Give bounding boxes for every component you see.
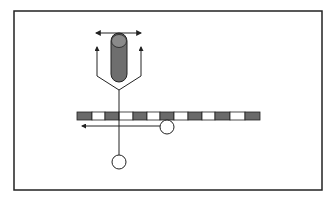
bar-segment-dark [188,112,202,120]
segmented-bar [77,112,260,120]
bar-segment-light [230,112,245,120]
bar-segment-dark [160,112,174,120]
bottom-circle [112,155,126,169]
bar-segment-light [202,112,215,120]
bar-segment-light [119,112,133,120]
bar-segment-dark [77,112,92,120]
bar-segment-dark [215,112,230,120]
bar-segment-light [147,112,160,120]
bar-segment-light [174,112,188,120]
bar-segment-dark [245,112,260,120]
bar-segment-light [92,112,105,120]
bar-segment-dark [105,112,119,120]
cylinder [111,33,127,82]
diagram-canvas [0,0,331,199]
right-circle [160,120,174,134]
circles [112,120,174,169]
diagram-frame [14,11,322,190]
cylinder-cap [112,35,127,48]
bar-segment-dark [133,112,147,120]
